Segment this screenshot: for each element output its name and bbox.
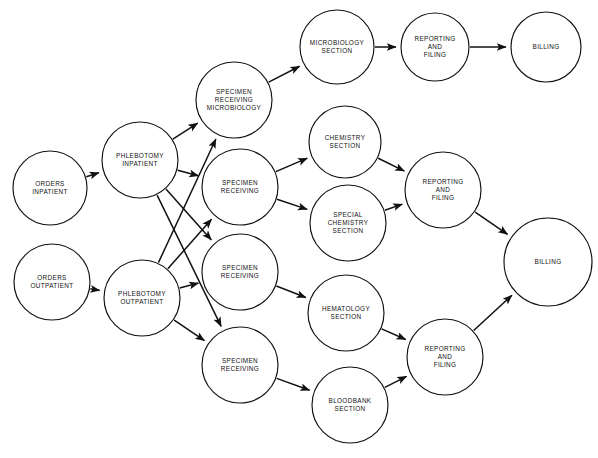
node-rep_mid[interactable]: REPORTINGANDFILING [405,152,481,228]
edge-sr_chem-to-chem_sec [276,158,307,171]
node-rep_top[interactable]: REPORTINGANDFILING [401,13,469,81]
edge-rep_bot-to-bill_main [474,295,512,330]
node-rep_bot[interactable]: REPORTINGANDFILING [407,319,483,395]
node-bill_main[interactable]: BILLING [504,218,592,306]
edge-sr_micro-to-micro_sec [269,66,300,82]
node-chem_sec[interactable]: CHEMISTRYSECTION [309,106,381,178]
node-layer: ORDERSINPATIENTORDERSOUTPATIENTPHLEBOTOM… [13,10,592,443]
node-blood_sec[interactable]: BLOODBANKSECTION [312,367,388,443]
node-hema_sec[interactable]: HEMATOLOGYSECTION [308,275,384,351]
edge-phleb_in-to-sr_chem [178,170,199,176]
node-label-blood_sec: BLOODBANKSECTION [329,397,372,412]
edge-spchem_sec-to-rep_mid [385,204,403,210]
edge-rep_mid-to-bill_main [475,212,507,234]
node-label-orders_in: ORDERSINPATIENT [32,180,68,195]
node-sr_chem[interactable]: SPECIMENRECEIVING [202,149,278,225]
edge-sr_blood-to-blood_sec [277,378,310,390]
node-label-sr_chem: SPECIMENRECEIVING [221,179,259,194]
edge-orders_out-to-phleb_out [90,289,99,291]
edge-sr_chem-to-spchem_sec [277,199,307,209]
node-micro_sec[interactable]: MICROBIOLOGYSECTION [300,10,374,84]
diagram-canvas: ORDERSINPATIENTORDERSOUTPATIENTPHLEBOTOM… [0,0,598,458]
node-orders_out[interactable]: ORDERSOUTPATIENT [14,244,90,320]
edge-sr_hema-to-hema_sec [276,286,306,297]
edge-orders_in-to-phleb_in [86,173,99,177]
node-label-chem_sec: CHEMISTRYSECTION [325,134,366,149]
edge-phleb_in-to-sr_micro [173,123,198,139]
node-label-phleb_out: PHLEBOTOMYOUTPATIENT [118,290,166,305]
edge-blood_sec-to-rep_bot [385,376,407,387]
node-bill_top[interactable]: BILLING [511,12,581,82]
edge-phleb_out-to-sr_blood [174,320,204,341]
node-spchem_sec[interactable]: SPECIALCHEMISTRYSECTION [310,185,386,261]
node-label-sr_hema: SPECIMENRECEIVING [221,264,259,279]
node-label-sr_blood: SPECIMENRECEIVING [221,357,259,372]
node-label-spchem_sec: SPECIALCHEMISTRYSECTION [328,211,369,234]
node-sr_blood[interactable]: SPECIMENRECEIVING [202,327,278,403]
node-phleb_in[interactable]: PHLEBOTOMYINPATIENT [102,122,178,198]
edge-hema_sec-to-rep_bot [382,329,406,340]
node-phleb_out[interactable]: PHLEBOTOMYOUTPATIENT [104,260,180,336]
edge-phleb_out-to-sr_hema [180,283,199,288]
node-label-bill_main: BILLING [535,258,562,265]
node-sr_micro[interactable]: SPECIMENRECEIVINGMICROBIOLOGY [196,62,272,138]
flowchart-svg: ORDERSINPATIENTORDERSOUTPATIENTPHLEBOTOM… [0,0,598,458]
node-orders_in[interactable]: ORDERSINPATIENT [13,151,87,225]
node-label-bill_top: BILLING [533,43,560,50]
node-label-phleb_in: PHLEBOTOMYINPATIENT [116,152,164,167]
edge-chem_sec-to-rep_mid [378,158,404,171]
node-sr_hema[interactable]: SPECIMENRECEIVING [202,234,278,310]
